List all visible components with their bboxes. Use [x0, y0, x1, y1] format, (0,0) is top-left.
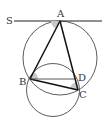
label-d: D	[78, 72, 86, 83]
label-b: B	[19, 76, 26, 87]
segment-bc	[30, 79, 78, 90]
geometry-diagram: S A B D C	[0, 0, 107, 126]
circumcircle-abc	[23, 21, 97, 95]
segment-ab	[30, 21, 60, 79]
label-s: S	[6, 15, 13, 26]
segment-ac	[60, 21, 78, 90]
label-a: A	[56, 8, 65, 19]
label-c: C	[79, 89, 87, 100]
